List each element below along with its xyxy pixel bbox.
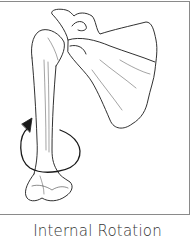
scapula-bone [52, 9, 157, 128]
shoulder-illustration [0, 0, 195, 216]
figure-caption: Internal Rotation [0, 222, 195, 240]
humerus-bone [25, 30, 72, 201]
rotation-arrow-icon [21, 118, 80, 172]
